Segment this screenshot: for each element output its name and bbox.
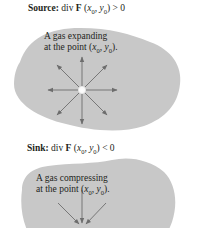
sink-caption: A gas compressing at the point (x0, y0). [36,173,110,198]
sink-label: Sink: [27,143,49,153]
source-center-point [78,86,87,95]
source-caption: A gas expanding at the point (x0, y0). [44,31,118,56]
sink-heading: Sink: div F (x0, y0) < 0 [27,143,115,155]
source-heading: Source: div F (x0, y0) > 0 [28,3,125,15]
source-label: Source: [28,3,59,13]
